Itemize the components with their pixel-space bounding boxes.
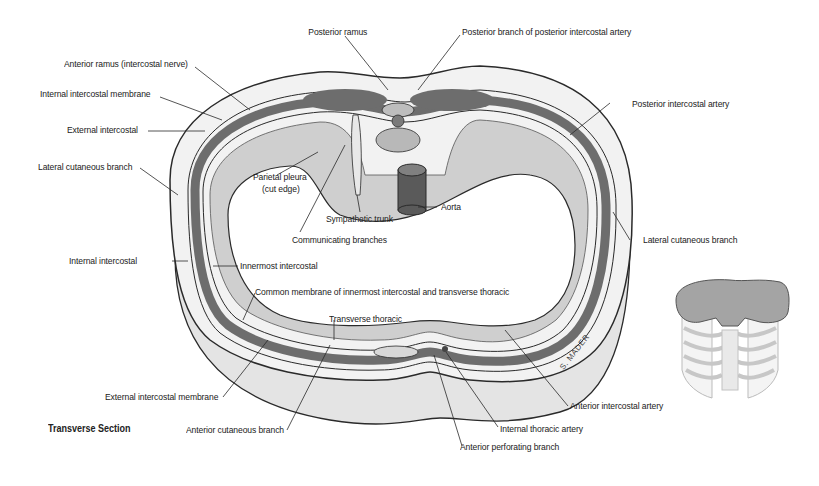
label-posterior-branch-posterior-intercostal-artery: Posterior branch of posterior intercosta… (462, 27, 631, 37)
label-sympathetic-trunk: Sympathetic trunk (326, 214, 393, 224)
label-aorta: Aorta (441, 202, 461, 212)
label-innermost-intercostal: Innermost intercostal (240, 261, 317, 271)
erector-spinae-left (303, 89, 387, 111)
label-lateral-cutaneous-branch-left: Lateral cutaneous branch (38, 162, 132, 172)
label-posterior-intercostal-artery: Posterior intercostal artery (632, 99, 729, 109)
label-lateral-cutaneous-branch-right: Lateral cutaneous branch (643, 235, 737, 245)
label-communicating-branches: Communicating branches (292, 235, 387, 245)
label-common-membrane: Common membrane of innermost intercostal… (255, 287, 509, 297)
sternum (374, 346, 418, 358)
label-anterior-intercostal-artery: Anterior intercostal artery (570, 401, 663, 411)
figure-caption: Transverse Section (48, 423, 131, 434)
label-external-intercostal: External intercostal (67, 125, 138, 135)
label-internal-intercostal: Internal intercostal (69, 256, 137, 266)
label-external-intercostal-membrane: External intercostal membrane (105, 392, 218, 402)
rib-cage-inset (676, 280, 789, 398)
internal-thoracic-artery-vessel (442, 346, 448, 352)
spinal-cord (392, 115, 404, 127)
label-anterior-cutaneous-branch: Anterior cutaneous branch (186, 425, 284, 435)
label-posterior-ramus: Posterior ramus (308, 27, 367, 37)
label-parietal-pleura-cut-edge: (cut edge) (262, 184, 300, 194)
vertebral-body (376, 128, 420, 152)
label-internal-intercostal-membrane: Internal intercostal membrane (40, 89, 151, 99)
label-anterior-ramus: Anterior ramus (intercostal nerve) (64, 59, 188, 69)
inset-section-plane (676, 280, 789, 326)
label-parietal-pleura: Parietal pleura (253, 172, 307, 182)
label-transverse-thoracic: Transverse thoracic (329, 314, 402, 324)
label-internal-thoracic-artery: Internal thoracic artery (500, 424, 583, 434)
erector-spinae-right (410, 89, 494, 111)
label-anterior-perforating-branch: Anterior perforating branch (460, 442, 559, 452)
